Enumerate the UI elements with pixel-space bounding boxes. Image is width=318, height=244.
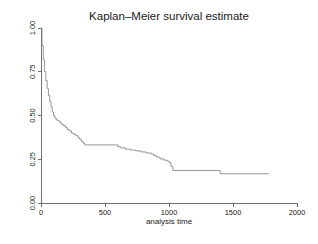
chart-figure: Kaplan–Meier survival estimate 0.000.250… [0, 0, 318, 244]
x-tick-label: 0 [39, 208, 43, 217]
chart-title: Kaplan–Meier survival estimate [89, 10, 249, 22]
x-tick-label: 500 [99, 208, 112, 217]
y-tick-label: 0.25 [28, 152, 37, 167]
y-tick-label: 0.50 [28, 108, 37, 123]
chart-background [0, 0, 318, 244]
y-tick-label: 0.00 [28, 196, 37, 211]
kaplan-meier-chart: Kaplan–Meier survival estimate 0.000.250… [0, 0, 318, 244]
x-tick-label: 1000 [161, 208, 178, 217]
y-tick-label: 0.75 [28, 64, 37, 79]
x-tick-label: 1500 [225, 208, 242, 217]
x-tick-label: 2000 [289, 208, 306, 217]
y-tick-label: 1.00 [28, 21, 37, 36]
x-axis-label: analysis time [146, 217, 193, 226]
